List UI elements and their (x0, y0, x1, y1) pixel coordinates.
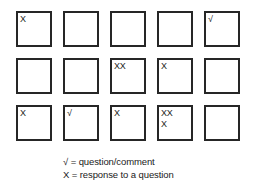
grid-cell: X (16, 105, 52, 141)
cell-grid: X √ XX X X √ X XX X (16, 11, 240, 141)
grid-cell (63, 11, 99, 47)
grid-cell: X (110, 105, 146, 141)
cell-marks: XX (114, 61, 144, 72)
cell-marks: XX X (161, 108, 191, 129)
legend-line-x: X = response to a question (63, 169, 253, 182)
legend: √ = question/comment X = response to a q… (63, 156, 253, 181)
cell-marks: X (20, 108, 50, 119)
grid-cell (63, 58, 99, 94)
legend-line-checkmark: √ = question/comment (63, 156, 253, 169)
cell-marks: √ (67, 108, 97, 119)
grid-cell (204, 105, 240, 141)
grid-cell (110, 11, 146, 47)
grid-cell (204, 58, 240, 94)
seating-chart-diagram: X √ XX X X √ X XX X √ = question/comment… (0, 0, 261, 189)
grid-cell: XX X (157, 105, 193, 141)
cell-marks: X (161, 61, 191, 72)
cell-marks: X (114, 108, 144, 119)
grid-cell (157, 11, 193, 47)
grid-cell: √ (63, 105, 99, 141)
cell-marks: X (20, 14, 50, 25)
grid-cell: √ (204, 11, 240, 47)
cell-marks: √ (208, 14, 238, 25)
grid-cell: X (157, 58, 193, 94)
grid-cell: XX (110, 58, 146, 94)
grid-cell: X (16, 11, 52, 47)
grid-cell (16, 58, 52, 94)
